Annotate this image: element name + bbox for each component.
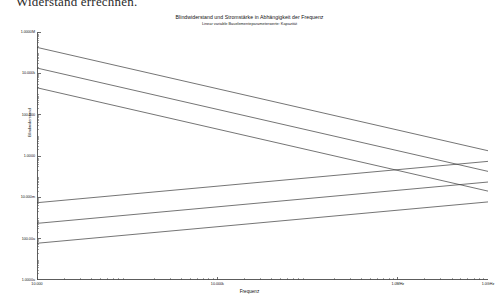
plot-canvas bbox=[37, 32, 488, 280]
x-tick-label: 1.0MHz bbox=[391, 282, 404, 286]
series-line-2 bbox=[37, 88, 488, 191]
series-line-5 bbox=[37, 202, 488, 243]
plot-area bbox=[37, 32, 488, 280]
data-series bbox=[37, 47, 488, 243]
y-tick-label: 100.00u bbox=[22, 237, 35, 241]
y-tick-label: 1.0000 bbox=[24, 154, 35, 158]
x-tick-label: 10.000 bbox=[31, 282, 42, 286]
x-axis-title: Frequenz bbox=[0, 289, 499, 294]
x-tick-label: 10.000k bbox=[211, 282, 224, 286]
chart-title: Blindwiderstand und Stromstärke in Abhän… bbox=[0, 14, 499, 20]
x-tick-label: 1.0GHz bbox=[482, 282, 495, 286]
series-line-3 bbox=[37, 161, 488, 202]
y-tick-label: 100.000 bbox=[22, 113, 35, 117]
series-line-0 bbox=[37, 47, 488, 150]
chart-figure: Blindwiderstand und Stromstärke in Abhän… bbox=[0, 8, 499, 294]
y-tick-label: 1.0000M bbox=[21, 30, 35, 34]
series-line-4 bbox=[37, 182, 488, 223]
y-tick-label: 10.000m bbox=[21, 195, 35, 199]
y-tick-label: 10.000k bbox=[22, 71, 35, 75]
series-line-1 bbox=[37, 68, 488, 171]
chart-subtitle: Linear variable Bauelementeparameterwert… bbox=[0, 21, 499, 26]
y-axis-tick-labels: 1.0000M10.000k100.0001.000010.000m100.00… bbox=[0, 32, 35, 280]
